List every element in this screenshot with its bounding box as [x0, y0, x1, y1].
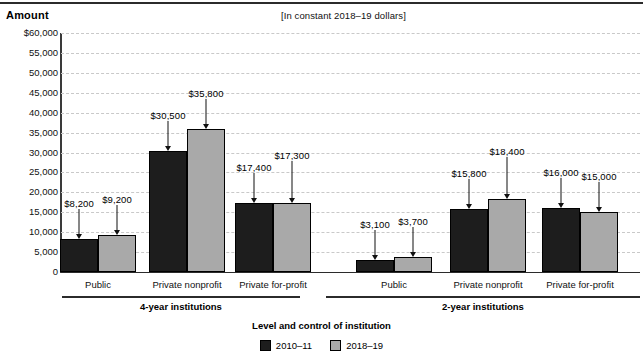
y-axis-tick-label: $60,000: [2, 27, 58, 38]
arrowhead-icon: [596, 207, 602, 212]
bar: [149, 151, 187, 272]
data-label: $30,500: [150, 110, 185, 121]
leader-line: [168, 121, 169, 146]
data-label: $3,100: [360, 219, 390, 230]
y-axis-tick-label: 15,000: [2, 206, 58, 217]
data-label: $16,000: [543, 167, 578, 178]
category-label: Private for-profit: [546, 279, 614, 290]
x-axis-title: Level and control of institution: [0, 320, 643, 331]
bar: [235, 203, 273, 272]
category-label: Private nonprofit: [453, 279, 522, 290]
arrowhead-icon: [251, 198, 257, 203]
legend-item-2018-19: 2018–19: [330, 340, 383, 351]
leader-line: [469, 179, 470, 204]
bars-layer: [61, 33, 640, 272]
leader-line: [599, 182, 600, 207]
leader-line: [507, 157, 508, 194]
bar: [394, 257, 432, 272]
group-bracket-4-year: [62, 296, 300, 298]
bar: [273, 203, 311, 272]
legend-label: 2010–11: [276, 340, 312, 351]
leader-line: [561, 178, 562, 203]
y-axis-tick-label: 35,000: [2, 127, 58, 138]
top-divider: [0, 2, 643, 4]
arrowhead-icon: [466, 204, 472, 209]
y-axis-tick-label: 20,000: [2, 186, 58, 197]
data-label: $35,800: [188, 88, 223, 99]
group-label-2-year: 2-year institutions: [442, 301, 524, 312]
y-axis-tick-label: 25,000: [2, 166, 58, 177]
category-label: Private nonprofit: [152, 279, 221, 290]
legend-swatch-icon: [330, 340, 341, 351]
bar: [542, 208, 580, 272]
arrowhead-icon: [504, 194, 510, 199]
gridline: [61, 272, 640, 273]
data-label: $9,200: [102, 194, 132, 205]
y-axis-tick-label: 5,000: [2, 246, 58, 257]
leader-line: [413, 227, 414, 252]
chart-root: Amount [In constant 2018–19 dollars] $60…: [0, 0, 643, 361]
y-axis-tick-label: 40,000: [2, 107, 58, 118]
leader-line: [292, 161, 293, 198]
arrowhead-icon: [558, 203, 564, 208]
bar: [98, 235, 136, 272]
data-label: $17,300: [274, 150, 309, 161]
arrowhead-icon: [114, 230, 120, 235]
group-bracket-2-year: [326, 296, 640, 298]
data-label: $15,000: [581, 171, 616, 182]
y-axis-tick-label: 10,000: [2, 226, 58, 237]
bar: [488, 199, 526, 272]
leader-line: [117, 205, 118, 230]
leader-line: [375, 230, 376, 255]
y-axis-tick-label: 50,000: [2, 67, 58, 78]
data-label: $15,800: [451, 168, 486, 179]
bar: [450, 209, 488, 272]
arrowhead-icon: [76, 234, 82, 239]
arrowhead-icon: [372, 255, 378, 260]
arrowhead-icon: [289, 198, 295, 203]
arrowhead-icon: [165, 146, 171, 151]
data-label: $8,200: [64, 198, 94, 209]
arrowhead-icon: [203, 124, 209, 129]
data-label: $17,400: [236, 162, 271, 173]
arrowhead-icon: [410, 252, 416, 257]
y-axis-tick-label: 55,000: [2, 47, 58, 58]
bar: [187, 129, 225, 272]
y-axis-tick-labels: $60,00055,00050,00045,00040,00035,00030,…: [0, 0, 58, 361]
legend: 2010–11 2018–19: [0, 340, 643, 351]
y-axis-tick-label: 30,000: [2, 147, 58, 158]
legend-swatch-icon: [260, 340, 271, 351]
group-label-4-year: 4-year institutions: [140, 301, 222, 312]
bar: [60, 239, 98, 272]
leader-line: [79, 209, 80, 234]
data-label: $3,700: [398, 216, 428, 227]
y-axis-tick-label: 45,000: [2, 87, 58, 98]
leader-line: [206, 99, 207, 124]
legend-item-2010-11: 2010–11: [260, 340, 312, 351]
bar: [356, 260, 394, 272]
data-label: $18,400: [489, 146, 524, 157]
legend-label: 2018–19: [346, 340, 383, 351]
y-axis-tick-label: 0: [2, 266, 58, 277]
leader-line: [254, 173, 255, 198]
category-label: Public: [381, 279, 407, 290]
bar: [580, 212, 618, 272]
category-label: Private for-profit: [239, 279, 307, 290]
chart-subtitle: [In constant 2018–19 dollars]: [281, 10, 406, 21]
category-label: Public: [85, 279, 111, 290]
